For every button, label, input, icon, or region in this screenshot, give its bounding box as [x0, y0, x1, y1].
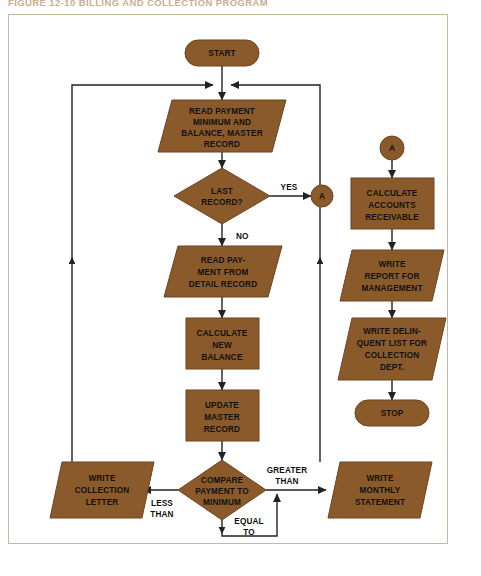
arrowhead-right-feedback [317, 257, 324, 264]
node-read-detail-record[interactable]: READ PAY- MENT FROM DETAIL RECORD [164, 246, 282, 297]
node-compare-payment-decision[interactable]: COMPARE PAYMENT TO MINIMUM [178, 460, 266, 520]
node-update-master-record-label-line-2: RECORD [204, 425, 240, 434]
node-calculate-new-balance-label-line-0: CALCULATE [197, 329, 248, 338]
node-write-collection-letter[interactable]: WRITE COLLECTION LETTER [50, 462, 154, 518]
node-compare-payment-decision-label-line-1: PAYMENT TO [195, 487, 249, 496]
node-last-record-decision-label-line-0: LAST [211, 187, 233, 196]
node-read-master-record-label-line-3: RECORD [204, 140, 240, 149]
node-read-master-record-label-line-2: BALANCE, MASTER [181, 129, 262, 138]
arrowhead-left-feedback [69, 257, 76, 264]
node-write-delinquent-list-label-line-1: QUENT LIST FOR [357, 339, 427, 348]
edge-label-equal-to-line-0: EQUAL [234, 517, 263, 526]
node-calculate-new-balance-label-line-2: BALANCE [201, 353, 242, 362]
node-update-master-record[interactable]: UPDATE MASTER RECORD [186, 390, 259, 441]
node-calculate-accounts-receivable[interactable]: CALCULATE ACCOUNTS RECEIVABLE [351, 178, 434, 229]
edge-label-less-than-line-1: THAN [150, 510, 173, 519]
node-read-detail-record-label-line-1: MENT FROM [198, 268, 249, 277]
node-connector-a-out-label: A [319, 192, 325, 201]
node-start[interactable]: START [185, 40, 259, 66]
edge-label-equal-to-line-1: TO [243, 528, 255, 537]
node-calculate-new-balance[interactable]: CALCULATE NEW BALANCE [186, 318, 259, 369]
node-last-record-decision[interactable]: LAST RECORD? [174, 168, 270, 224]
node-write-report-for-management[interactable]: WRITE REPORT FOR MANAGEMENT [340, 250, 444, 301]
edge-label-greater-than-line-1: THAN [275, 477, 298, 486]
node-stop[interactable]: STOP [355, 400, 429, 426]
edge-label-less-than-line-0: LESS [151, 499, 173, 508]
node-calculate-accounts-receivable-label-line-2: RECEIVABLE [365, 213, 419, 222]
node-write-delinquent-list[interactable]: WRITE DELIN- QUENT LIST FOR COLLECTION D… [338, 318, 446, 380]
node-read-detail-record-label-line-0: READ PAY- [201, 256, 246, 265]
node-write-collection-letter-label-line-1: COLLECTION [75, 486, 130, 495]
node-calculate-accounts-receivable-label-line-1: ACCOUNTS [368, 201, 416, 210]
node-read-master-record-label-line-0: READ PAYMENT [189, 107, 255, 116]
node-write-delinquent-list-label-line-3: DEPT. [380, 363, 404, 372]
node-connector-a-out[interactable]: A [311, 185, 333, 207]
edge-label-yes: YES [281, 183, 298, 192]
node-read-master-record[interactable]: READ PAYMENT MINIMUM AND BALANCE, MASTER… [158, 100, 286, 152]
flowchart-canvas: START READ PAYMENT MINIMUM AND BALANCE, … [0, 0, 481, 576]
node-write-monthly-statement[interactable]: WRITE MONTHLY STATEMENT [328, 462, 432, 518]
node-compare-payment-decision-label-line-2: MINIMUM [203, 498, 241, 507]
node-calculate-accounts-receivable-label-line-0: CALCULATE [367, 189, 418, 198]
node-read-master-record-label-line-1: MINIMUM AND [193, 118, 251, 127]
node-compare-payment-decision-label-line-0: COMPARE [201, 476, 244, 485]
edge-label-greater-than-line-0: GREATER [267, 466, 307, 475]
node-start-label-line-0: START [208, 49, 235, 58]
node-connector-a-in[interactable]: A [380, 136, 404, 160]
node-write-report-for-management-label-line-1: REPORT FOR [364, 272, 419, 281]
node-write-monthly-statement-label-line-2: STATEMENT [355, 498, 405, 507]
edge-label-no: NO [236, 232, 249, 241]
node-write-monthly-statement-label-line-0: WRITE [366, 474, 394, 483]
node-last-record-decision-label-line-1: RECORD? [201, 198, 243, 207]
node-write-report-for-management-label-line-0: WRITE [378, 260, 406, 269]
node-connector-a-in-label: A [389, 144, 395, 153]
arrowhead-equal-to-down [219, 527, 226, 534]
node-read-detail-record-label-line-2: DETAIL RECORD [189, 280, 258, 289]
node-write-collection-letter-label-line-2: LETTER [86, 498, 119, 507]
node-update-master-record-label-line-0: UPDATE [205, 401, 239, 410]
node-stop-label: STOP [381, 409, 404, 418]
node-write-report-for-management-label-line-2: MANAGEMENT [361, 284, 422, 293]
node-update-master-record-label-line-1: MASTER [204, 413, 239, 422]
node-write-monthly-statement-label-line-1: MONTHLY [360, 486, 401, 495]
node-write-delinquent-list-label-line-2: COLLECTION [365, 351, 420, 360]
node-write-collection-letter-label-line-0: WRITE [88, 474, 116, 483]
node-last-record-decision-shape [174, 168, 270, 224]
node-write-delinquent-list-label-line-0: WRITE DELIN- [363, 327, 421, 336]
node-calculate-new-balance-label-line-1: NEW [212, 341, 232, 350]
